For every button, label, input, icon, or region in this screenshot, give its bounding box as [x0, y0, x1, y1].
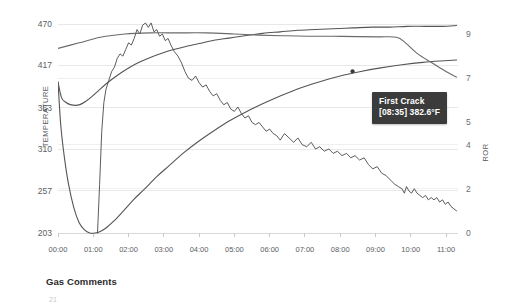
y-tick-label: 363 [38, 104, 52, 113]
chart-canvas [58, 20, 458, 239]
y2-tick-label: 0 [466, 229, 471, 238]
x-tick-label: 09:00 [366, 246, 385, 254]
y2-tick-label: 7 [466, 74, 471, 83]
x-tick-label: 00:00 [49, 246, 68, 254]
series-line [98, 23, 457, 233]
first-crack-dot[interactable] [350, 69, 354, 73]
x-tick-label: 11:00 [437, 246, 455, 254]
y-axis-title-temperature: TEMPERATURE [41, 86, 50, 148]
x-tick-label: 02:00 [119, 246, 138, 254]
x-tick-label: 08:00 [331, 246, 350, 254]
x-tick-label: 01:00 [84, 246, 103, 254]
x-tick-label: 03:00 [154, 246, 173, 254]
y-tick-label: 203 [38, 229, 52, 238]
x-tick-label: 04:00 [190, 246, 209, 254]
series-lines [58, 23, 457, 233]
gridlines [58, 24, 458, 233]
series-line [58, 33, 457, 77]
tooltip-detail: [08:35] 382.6°F [379, 107, 440, 118]
first-crack-marker[interactable] [350, 69, 354, 73]
chart-area: TEMPERATURE ROR 470417363310257203 97542… [0, 0, 514, 262]
tooltip-title: First Crack [379, 96, 440, 107]
y2-tick-label: 5 [466, 118, 471, 127]
gas-comments-partial-label: 21 [49, 296, 57, 302]
plot-region[interactable]: TEMPERATURE ROR 470417363310257203 97542… [58, 20, 458, 239]
first-crack-tooltip: First Crack [08:35] 382.6°F [372, 92, 447, 124]
gas-comments-heading: Gas Comments [46, 276, 117, 287]
y-tick-label: 417 [38, 61, 52, 70]
series-line [58, 60, 457, 233]
y-tick-label: 470 [38, 20, 52, 29]
y-tick-label: 257 [38, 187, 52, 196]
x-tick-marks [58, 233, 458, 237]
x-tick-label: 10:00 [401, 246, 420, 254]
roast-profile-chart-panel: TEMPERATURE ROR 470417363310257203 97542… [0, 0, 514, 302]
x-tick-label: 05:00 [225, 246, 244, 254]
footer-section: Gas Comments 21 [0, 262, 514, 302]
y-tick-label: 310 [38, 145, 52, 154]
x-tick-label: 07:00 [296, 246, 315, 254]
x-tick-label: 06:00 [260, 246, 279, 254]
y2-tick-label: 2 [466, 185, 471, 194]
y2-tick-label: 9 [466, 30, 471, 39]
y2-tick-label: 4 [466, 141, 471, 150]
y-axis-title-ror: ROR [481, 143, 490, 161]
